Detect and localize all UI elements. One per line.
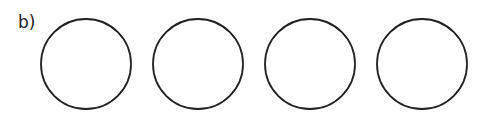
circles-diagram — [0, 0, 477, 122]
circle-3 — [265, 19, 355, 109]
circle-2 — [153, 19, 243, 109]
circle-4 — [377, 19, 467, 109]
circle-1 — [41, 19, 131, 109]
